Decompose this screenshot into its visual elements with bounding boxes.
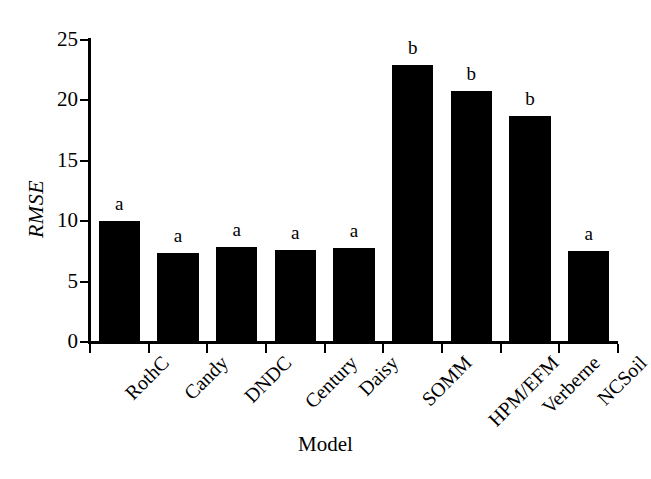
x-axis-category-label: DNDC bbox=[240, 352, 294, 406]
x-axis-category-label: Daisy bbox=[355, 352, 402, 399]
x-axis-category-label: Century bbox=[301, 352, 361, 412]
x-axis-category-label: RothC bbox=[122, 352, 173, 403]
x-axis-title: Model bbox=[0, 432, 651, 457]
bar-chart-figure: RMSE 0510152025 aaaaabbba RothCCandyDNDC… bbox=[0, 0, 651, 479]
x-axis-category-label: SOMM bbox=[418, 352, 475, 409]
x-axis-category-label: Candy bbox=[180, 352, 231, 403]
x-axis-category-label: NCSoil bbox=[593, 352, 650, 409]
x-axis-tick-labels: RothCCandyDNDCCenturyDaisySOMMHPM/EFMVer… bbox=[0, 0, 651, 479]
